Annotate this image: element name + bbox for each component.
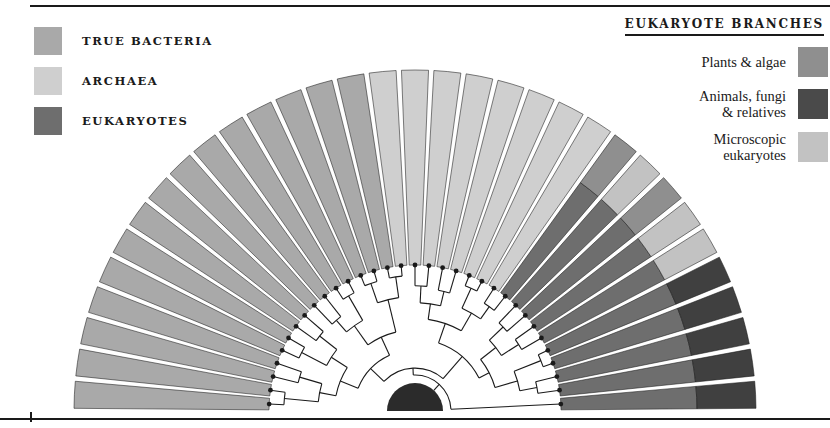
legend-domains: TRUE BACTERIA ARCHAEA EUKARYOTES [34,24,334,144]
legend-swatch-plants-and-algae [798,47,828,77]
legend-item-eukaryotes[interactable]: EUKARYOTES [34,104,334,138]
legend-label-eukaryotes: EUKARYOTES [82,114,188,128]
legend-label-plants-and-algae: Plants & algae [701,54,786,70]
legend-label-archaea: ARCHAEA [82,74,158,88]
figure-canvas: TRUE BACTERIA ARCHAEA EUKARYOTES EUKARYO… [0,0,830,428]
legend-label-microscopic-eukaryotes: Microscopic eukaryotes [714,131,786,163]
legend-item-animals-fungi-relatives[interactable]: Animals, fungi & relatives [538,88,828,120]
bottom-divider-rule [0,418,830,420]
bottom-axis-tick [30,412,32,422]
legend-item-plants-and-algae[interactable]: Plants & algae [538,47,828,77]
legend-label-true-bacteria: TRUE BACTERIA [82,34,213,48]
legend-swatch-microscopic-eukaryotes [798,132,828,162]
legend-swatch-archaea [34,67,62,95]
root-node [387,383,443,411]
legend-eukaryote-branches: EUKARYOTE BRANCHES Plants & algae Animal… [538,14,828,163]
legend-label-animals-fungi-relatives: Animals, fungi & relatives [699,88,786,120]
legend-swatch-animals-fungi-relatives [798,89,828,119]
legend-item-archaea[interactable]: ARCHAEA [34,64,334,98]
legend-eukaryote-branches-title: EUKARYOTE BRANCHES [625,17,824,36]
legend-swatch-true-bacteria [34,27,62,55]
legend-swatch-eukaryotes [34,107,62,135]
legend-item-microscopic-eukaryotes[interactable]: Microscopic eukaryotes [538,131,828,163]
legend-item-true-bacteria[interactable]: TRUE BACTERIA [34,24,334,58]
